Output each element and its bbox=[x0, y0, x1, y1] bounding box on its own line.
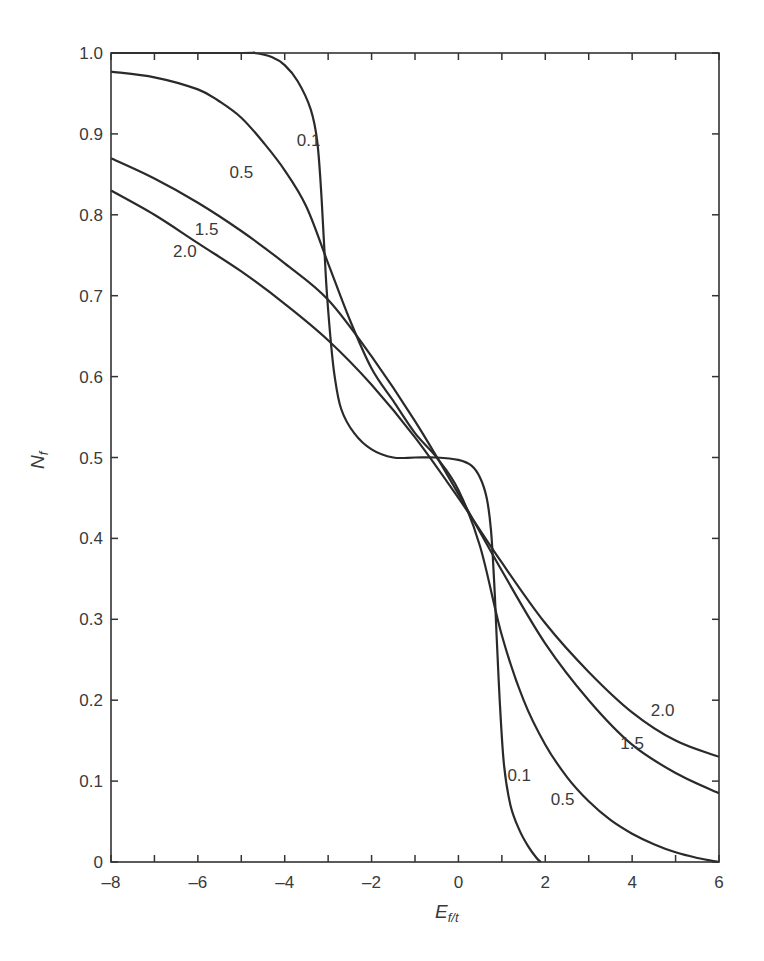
curve-label-0.5: 0.5 bbox=[229, 163, 253, 182]
x-tick-label: –4 bbox=[275, 873, 294, 892]
curve-label-0.1: 0.1 bbox=[297, 131, 321, 150]
curve-t-0.1 bbox=[111, 53, 541, 862]
x-tick-label: –2 bbox=[362, 873, 381, 892]
curve-t-2.0 bbox=[111, 191, 719, 757]
x-tick-label: 0 bbox=[454, 873, 463, 892]
y-tick-label: 0.5 bbox=[79, 449, 103, 468]
y-tick-label: 0.3 bbox=[79, 610, 103, 629]
curve-label-0.5: 0.5 bbox=[551, 790, 575, 809]
curve-label-2.0: 2.0 bbox=[651, 701, 675, 720]
y-tick-label: 0.8 bbox=[79, 206, 103, 225]
axis-ticks: –8–6–4–2024600.10.20.30.40.50.60.70.80.9… bbox=[79, 44, 723, 892]
curve-t-1.5 bbox=[111, 158, 719, 793]
y-tick-label: 1.0 bbox=[79, 44, 103, 63]
curve-label-0.1: 0.1 bbox=[507, 766, 531, 785]
y-tick-label: 0 bbox=[94, 853, 103, 872]
y-tick-label: 0.1 bbox=[79, 772, 103, 791]
x-tick-label: –8 bbox=[102, 873, 121, 892]
chart: –8–6–4–2024600.10.20.30.40.50.60.70.80.9… bbox=[0, 0, 764, 961]
curve-labels: 0.10.10.50.51.51.52.02.0 bbox=[173, 131, 674, 809]
x-tick-label: 4 bbox=[627, 873, 636, 892]
y-tick-label: 0.9 bbox=[79, 125, 103, 144]
y-tick-label: 0.4 bbox=[79, 529, 103, 548]
x-axis-label: Ef/t bbox=[435, 901, 460, 925]
curve-label-1.5: 1.5 bbox=[620, 734, 644, 753]
y-tick-label: 0.6 bbox=[79, 368, 103, 387]
curve-label-1.5: 1.5 bbox=[195, 220, 219, 239]
x-tick-label: –6 bbox=[188, 873, 207, 892]
y-tick-label: 0.2 bbox=[79, 691, 103, 710]
x-tick-label: 2 bbox=[541, 873, 550, 892]
y-axis-label: Nf bbox=[27, 450, 51, 469]
curve-label-2.0: 2.0 bbox=[173, 242, 197, 261]
y-tick-label: 0.7 bbox=[79, 287, 103, 306]
x-tick-label: 6 bbox=[714, 873, 723, 892]
